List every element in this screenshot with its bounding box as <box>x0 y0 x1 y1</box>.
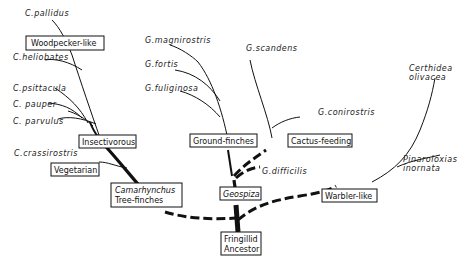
darwin-finch-phylogeny-diagram: Woodpecker-like Insectivorous Vegetarian… <box>0 0 470 259</box>
node-geospiza: Geospiza <box>220 187 261 200</box>
species-c-pallidus: C.pallidus <box>25 9 69 18</box>
species-pinaroloxias-inornata-line1: Pinaroloxias <box>403 155 457 164</box>
species-g-difficilis: G.difficilis <box>262 167 307 176</box>
species-g-conirostris: G.conirostris <box>318 108 375 117</box>
node-warbler-like: Warbler-like <box>322 189 377 202</box>
node-cactus-feeding: Cactus-feeding <box>288 134 352 147</box>
species-c-pauper: C. pauper <box>13 100 57 109</box>
node-fringillid-ancestor: Fringillid Ancestor <box>221 232 261 255</box>
svg-text:Warbler-like: Warbler-like <box>325 192 372 201</box>
svg-text:Woodpecker-like: Woodpecker-like <box>31 39 96 48</box>
svg-text:Vegetarian: Vegetarian <box>54 166 97 175</box>
species-pinaroloxias-inornata-line2: inornata <box>403 164 441 173</box>
species-c-psittacula: C.psittacula <box>13 84 66 93</box>
species-g-fortis: G.fortis <box>145 60 178 69</box>
node-woodpecker-like: Woodpecker-like <box>26 36 104 50</box>
svg-text:Ground-finches: Ground-finches <box>193 137 254 146</box>
species-g-scandens: G.scandens <box>246 44 298 53</box>
species-certhidea-olivacea-line1: Certhidea <box>409 64 453 73</box>
node-vegetarian: Vegetarian <box>51 163 99 176</box>
species-certhidea-olivacea-line2: olivacea <box>409 73 446 82</box>
species-c-crassirostris: C.crassirostris <box>14 149 78 158</box>
node-insectivorous: Insectivorous <box>79 135 136 148</box>
species-c-parvulus: C. parvulus <box>13 117 64 126</box>
svg-text:Geospiza: Geospiza <box>223 190 260 199</box>
svg-text:Insectivorous: Insectivorous <box>82 138 135 147</box>
svg-text:Cactus-feeding: Cactus-feeding <box>291 137 351 146</box>
svg-text:Tree-finches: Tree-finches <box>114 196 163 205</box>
node-ground-finches: Ground-finches <box>190 134 257 147</box>
species-c-heliobates: C.heliobates <box>13 53 69 62</box>
node-tree-finches: Camarhynchus Tree-finches <box>111 183 182 207</box>
species-g-fuliginosa: G.fuliginosa <box>145 84 198 93</box>
svg-text:Ancestor: Ancestor <box>224 245 260 254</box>
svg-text:Fringillid: Fringillid <box>224 235 258 244</box>
svg-text:Camarhynchus: Camarhynchus <box>115 186 175 195</box>
species-g-magnirostris: G.magnirostris <box>145 36 211 45</box>
